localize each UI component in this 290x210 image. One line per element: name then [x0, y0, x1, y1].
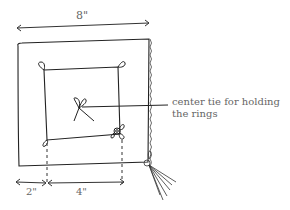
- outer-square: [18, 39, 149, 166]
- border-width-label: 2": [26, 186, 37, 197]
- tassel-icon: [144, 151, 176, 200]
- center-tie-icon: [74, 98, 94, 121]
- annotation-line-1: center tie for holding: [172, 96, 280, 108]
- inner-width-label: 4": [76, 186, 87, 197]
- inner-square: [44, 67, 120, 140]
- overall-width-label: 8": [76, 10, 88, 21]
- dimension-guides: [47, 140, 122, 184]
- bottom-dimension-arrows: [16, 179, 124, 186]
- annotation-leader: [82, 105, 168, 107]
- annotation-text: center tie for holding the rings: [172, 96, 280, 120]
- annotation-line-2: the rings: [172, 108, 280, 120]
- ring-knot-icon: [111, 125, 124, 140]
- corner-loops: [39, 62, 126, 147]
